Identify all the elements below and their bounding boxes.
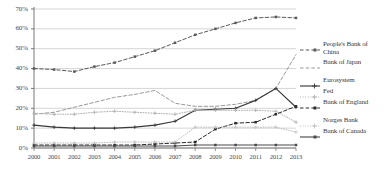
data-point: [275, 16, 278, 18]
series-line: [34, 106, 296, 145]
data-point: [134, 145, 137, 148]
legend-item: People's Bank of China: [300, 40, 385, 57]
legend-swatch-icon: [300, 77, 320, 87]
legend-item: Eurosystem: [300, 76, 385, 86]
data-point: [73, 145, 76, 148]
legend-label: Fed: [323, 87, 385, 95]
legend-swatch-icon: [300, 99, 320, 109]
data-point: [254, 17, 257, 20]
y-axis-tick-label: 10%: [0, 124, 28, 132]
data-point: [234, 144, 237, 147]
data-point: [234, 22, 237, 25]
data-point: [295, 144, 298, 147]
data-point: [53, 145, 56, 148]
x-axis-tick-label: 2012: [265, 153, 287, 160]
data-point: [154, 145, 157, 148]
chart-plot-area: 0%10%20%30%40%50%60%70% 2000200120022003…: [0, 0, 300, 174]
line-chart-svg: [0, 0, 300, 174]
legend-item: Norges Bank: [300, 116, 385, 126]
x-axis-tick-label: 2002: [63, 153, 85, 160]
legend-label: People's Bank of China: [323, 40, 385, 57]
data-point: [113, 61, 116, 64]
x-axis-tick-label: 2001: [43, 153, 65, 160]
data-point: [214, 144, 217, 147]
x-axis-tick-label: 2003: [83, 153, 105, 160]
x-axis-tick-label: 2000: [23, 153, 45, 160]
data-point: [33, 67, 36, 70]
x-axis-tick-label: 2004: [104, 153, 126, 160]
data-point: [275, 144, 278, 147]
data-point: [174, 42, 177, 45]
data-point: [53, 68, 56, 71]
legend-swatch-icon: [300, 117, 320, 127]
legend-item: Bank of Canada: [300, 127, 385, 137]
legend-item: Fed: [300, 87, 385, 97]
data-point: [194, 141, 197, 144]
y-axis-tick-label: 30%: [0, 84, 28, 92]
data-point: [73, 70, 76, 73]
legend-label: Bank of Japan: [323, 58, 385, 66]
data-point: [295, 17, 298, 20]
data-point: [194, 144, 197, 147]
y-axis-tick-label: 60%: [0, 24, 28, 32]
series-line: [34, 55, 296, 115]
data-point: [254, 121, 257, 124]
legend-swatch-icon: [300, 41, 320, 51]
legend-swatch-icon: [300, 59, 320, 69]
x-axis-tick-label: 2009: [204, 153, 226, 160]
x-axis-tick-label: 2007: [164, 153, 186, 160]
chart-root: 0%10%20%30%40%50%60%70% 2000200120022003…: [0, 0, 389, 174]
y-axis-tick-label: 50%: [0, 44, 28, 52]
data-point: [174, 145, 177, 148]
data-point: [93, 145, 96, 148]
legend-swatch-icon: [300, 128, 320, 138]
data-point: [154, 49, 157, 52]
legend-label: Bank of England: [323, 98, 385, 106]
legend-label: Eurosystem: [323, 76, 385, 84]
data-point: [214, 28, 217, 31]
x-axis-tick-label: 2006: [144, 153, 166, 160]
x-axis-tick-label: 2008: [184, 153, 206, 160]
legend-label: Norges Bank: [323, 116, 385, 124]
legend-label: Bank of Canada: [323, 127, 385, 135]
y-axis-tick-label: 40%: [0, 64, 28, 72]
series-line: [34, 127, 296, 143]
data-point: [134, 55, 137, 58]
y-axis-tick-label: 20%: [0, 104, 28, 112]
series-line: [34, 17, 296, 72]
data-point: [234, 122, 237, 125]
legend-item: Bank of England: [300, 98, 385, 108]
data-point: [33, 145, 36, 148]
y-axis-tick-label: 70%: [0, 5, 28, 13]
data-point: [93, 65, 96, 68]
chart-legend: People's Bank of ChinaBank of JapanEuros…: [300, 40, 389, 160]
data-point: [275, 113, 278, 116]
y-axis-tick-label: 0%: [0, 144, 28, 152]
series-line: [34, 110, 296, 122]
x-axis-tick-label: 2010: [225, 153, 247, 160]
legend-item: Bank of Japan: [300, 58, 385, 68]
data-point: [113, 145, 116, 148]
data-point: [254, 144, 257, 147]
x-axis-tick-label: 2011: [245, 153, 267, 160]
legend-swatch-icon: [300, 88, 320, 98]
data-point: [194, 34, 197, 37]
x-axis-tick-label: 2005: [124, 153, 146, 160]
data-point: [295, 105, 298, 108]
